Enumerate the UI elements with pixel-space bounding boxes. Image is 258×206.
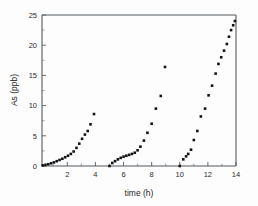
data-point <box>217 63 220 66</box>
data-point <box>81 138 84 141</box>
data-point <box>187 153 190 156</box>
data-point <box>122 155 125 158</box>
x-tick-label: 2 <box>65 170 69 179</box>
data-point <box>226 43 229 46</box>
data-point <box>64 156 67 159</box>
scatter-plot: 0510152025 2468101214 time (h) As (ppb) <box>0 0 258 206</box>
data-series <box>108 66 166 168</box>
data-point <box>108 165 111 168</box>
data-point <box>117 158 120 161</box>
data-point <box>111 162 114 165</box>
x-tick-label: 4 <box>93 170 97 179</box>
y-tick-label: 0 <box>33 162 37 171</box>
data-point <box>232 24 235 27</box>
y-axis-ticks: 0510152025 <box>29 11 46 171</box>
data-point <box>178 165 181 168</box>
data-point <box>200 115 203 118</box>
data-point <box>86 130 89 133</box>
data-point <box>58 159 61 162</box>
data-point <box>150 122 153 125</box>
data-point <box>131 153 134 156</box>
data-point <box>230 29 233 32</box>
data-point <box>93 113 96 116</box>
data-series <box>41 113 95 167</box>
data-point <box>125 154 128 157</box>
y-tick-label: 20 <box>29 41 37 50</box>
data-point <box>164 66 167 69</box>
data-point <box>53 161 56 164</box>
data-point <box>182 158 185 161</box>
y-tick-label: 25 <box>29 11 37 20</box>
data-point <box>41 164 44 167</box>
data-point <box>84 133 87 136</box>
data-point <box>128 154 131 157</box>
x-tick-label: 10 <box>176 170 184 179</box>
data-point <box>72 150 75 153</box>
data-point <box>70 153 73 156</box>
data-point <box>133 151 136 154</box>
data-point <box>78 142 81 145</box>
data-point <box>214 72 217 75</box>
data-series <box>178 20 236 168</box>
data-point <box>136 149 139 152</box>
x-tick-label: 12 <box>204 170 212 179</box>
data-point <box>155 107 158 110</box>
data-point <box>196 130 199 133</box>
data-point <box>67 154 70 157</box>
y-tick-label: 10 <box>29 101 37 110</box>
data-point <box>44 163 47 166</box>
y-tick-label: 15 <box>29 71 37 80</box>
x-tick-label: 8 <box>150 170 154 179</box>
data-series-layer <box>41 20 236 168</box>
data-point <box>159 95 162 98</box>
data-point <box>47 163 50 166</box>
data-point <box>89 123 92 126</box>
axis-spines <box>42 15 236 166</box>
data-point <box>75 147 78 150</box>
data-point <box>190 148 193 151</box>
x-axis-ticks: 2468101214 <box>53 162 240 179</box>
data-point <box>220 56 223 59</box>
x-tick-label: 14 <box>232 170 240 179</box>
data-point <box>55 160 58 163</box>
data-point <box>234 20 237 23</box>
data-point <box>185 155 188 158</box>
data-point <box>193 139 196 142</box>
chart-figure: 0510152025 2468101214 time (h) As (ppb) <box>0 0 258 206</box>
x-tick-label: 6 <box>121 170 125 179</box>
data-point <box>207 94 210 97</box>
y-axis-label: As (ppb) <box>9 74 19 106</box>
y-tick-label: 5 <box>33 132 37 141</box>
data-point <box>139 145 142 148</box>
data-point <box>228 35 231 38</box>
data-point <box>61 157 64 160</box>
data-point <box>119 157 122 160</box>
data-point <box>146 131 149 134</box>
data-point <box>204 107 207 110</box>
data-point <box>143 139 146 142</box>
data-point <box>50 162 53 165</box>
x-axis-label: time (h) <box>125 188 154 198</box>
data-point <box>114 160 117 163</box>
data-point <box>223 49 226 52</box>
data-point <box>211 84 214 87</box>
